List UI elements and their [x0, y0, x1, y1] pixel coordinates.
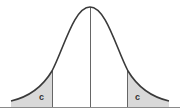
normal-curve-diagram: c c — [0, 0, 180, 112]
left-tail-label: c — [39, 92, 44, 102]
right-tail-label: c — [135, 92, 140, 102]
left-tail-shade — [11, 71, 52, 107]
